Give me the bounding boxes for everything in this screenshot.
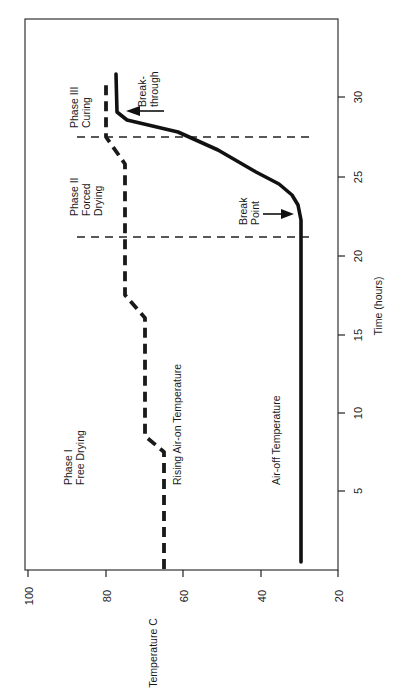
phase2-label-line3: Drying [92, 185, 104, 216]
phase1-label-line2: Free Drying [74, 430, 86, 485]
chart: 100 80 60 40 20 Temperature C 5 10 15 20… [0, 0, 393, 700]
y-tick-40: 40 [256, 590, 268, 602]
phase1-label-line1: Phase I [62, 449, 74, 485]
break-point-arrow [263, 209, 294, 219]
y-axis-ticks [28, 570, 338, 577]
x-tick-20: 20 [352, 250, 364, 262]
y-tick-100: 100 [23, 587, 35, 605]
y-tick-80: 80 [101, 590, 113, 602]
x-tick-25: 25 [352, 171, 364, 183]
break-point-label-line1: Break [237, 197, 249, 225]
x-axis-label: Time (hours) [372, 276, 384, 335]
break-point-label-line2: Point [249, 201, 261, 225]
phase2-label-line2: Forced [80, 183, 92, 216]
air-on-label: Rising Air-on Temperature [171, 364, 183, 485]
x-axis-ticks [338, 97, 345, 491]
phase3-label-line2: Curing [80, 97, 92, 128]
breakthrough-label-line2: through [148, 71, 160, 107]
y-tick-60: 60 [178, 590, 190, 602]
phase2-label-line1: Phase II [68, 177, 80, 216]
y-axis-label: Temperature C [147, 618, 159, 688]
x-tick-10: 10 [352, 407, 364, 419]
x-tick-30: 30 [352, 91, 364, 103]
x-tick-5: 5 [352, 488, 364, 494]
air-on-series [106, 82, 164, 569]
phase3-label-line1: Phase III [68, 87, 80, 128]
breakthrough-label-line1: Break- [136, 76, 148, 107]
air-off-label: Air-off Temperature [270, 395, 282, 485]
x-tick-15: 15 [352, 329, 364, 341]
y-tick-20: 20 [333, 590, 345, 602]
